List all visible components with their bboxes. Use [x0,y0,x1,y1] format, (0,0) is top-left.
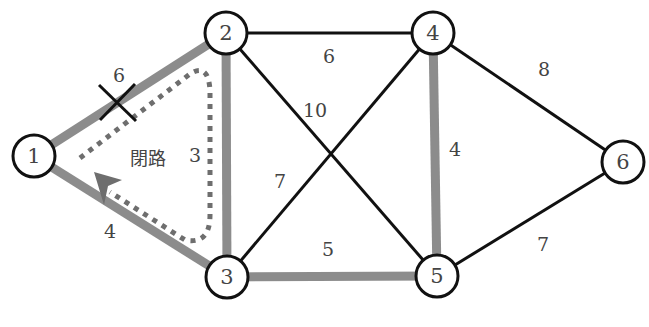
node-label: 3 [220,265,233,289]
edge-label-2-5: 10 [303,99,327,121]
edge-label-1-2: 6 [113,64,125,86]
node-3: 3 [206,256,248,298]
edge-label-3-4: 7 [274,170,286,192]
node-label: 6 [616,150,629,174]
cut-mark-icon [99,84,136,121]
edge-4-5 [433,33,437,276]
node-label: 5 [430,264,443,288]
graph-diagram: 6 4 3 6 10 7 5 4 8 7 閉路 1 2 3 [0,0,649,327]
loop-label: 閉路 [130,148,166,169]
node-label: 1 [27,144,40,168]
node-2: 2 [205,12,247,54]
edge-3-5 [227,276,437,277]
node-6: 6 [602,141,644,183]
edge-4-6 [433,33,623,162]
edge-label-2-4: 6 [323,45,335,67]
highlighted-edges [34,33,437,277]
node-4: 4 [412,12,454,54]
node-label: 4 [426,21,439,45]
edge-label-4-6: 8 [538,58,550,80]
edge-2-3 [226,33,227,277]
node-label: 2 [219,21,232,45]
edge-label-2-3: 3 [189,144,201,166]
edge-label-4-5: 4 [449,138,461,160]
edge-label-1-3: 4 [104,220,116,242]
edge-1-3 [34,156,227,277]
edge-label-3-5: 5 [322,238,334,260]
edge-1-2 [34,33,226,156]
edge-labels: 6 4 3 6 10 7 5 4 8 7 [104,45,550,260]
normal-edges [226,33,623,277]
edge-5-6 [437,162,623,276]
edge-label-5-6: 7 [537,233,549,255]
node-1: 1 [13,135,55,177]
node-5: 5 [416,255,458,297]
